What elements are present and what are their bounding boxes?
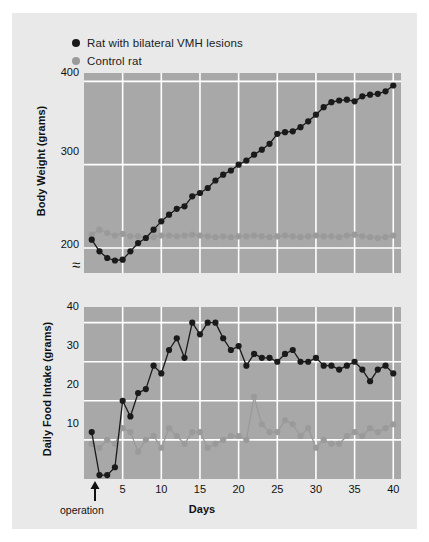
body-weight-chart: Body Weight (grams) 400 300 200 ≈	[12, 13, 417, 283]
food-intake-x-axis-title: Days	[162, 503, 242, 515]
food-intake-xtick-40: 40	[373, 483, 413, 495]
food-intake-chart: Daily Food Intake (grams) 40 30 20 10 51…	[12, 285, 417, 529]
body-weight-ytick-300: 300	[37, 145, 79, 157]
body-weight-plot-area	[84, 73, 401, 273]
food-intake-ytick-10: 10	[37, 417, 79, 429]
food-intake-xtick-25: 25	[257, 483, 297, 495]
body-weight-y-axis-title: Body Weight (grams)	[35, 86, 47, 236]
operation-annotation-label: operation	[60, 504, 104, 516]
operation-arrow-icon	[88, 481, 102, 501]
food-intake-xtick-5: 5	[103, 483, 143, 495]
body-weight-ytick-400: 400	[37, 66, 79, 78]
food-intake-ytick-40: 40	[37, 300, 79, 312]
body-weight-ytick-200: 200	[37, 238, 79, 250]
y-axis-break-icon: ≈	[72, 257, 80, 272]
food-intake-xtick-15: 15	[180, 483, 220, 495]
food-intake-plot-area	[84, 307, 401, 479]
food-intake-xtick-20: 20	[219, 483, 259, 495]
figure-panel: Rat with bilateral VMH lesions Control r…	[12, 13, 417, 529]
food-intake-xtick-10: 10	[141, 483, 181, 495]
food-intake-xtick-35: 35	[335, 483, 375, 495]
food-intake-ytick-20: 20	[37, 378, 79, 390]
food-intake-ytick-30: 30	[37, 339, 79, 351]
food-intake-xtick-30: 30	[296, 483, 336, 495]
